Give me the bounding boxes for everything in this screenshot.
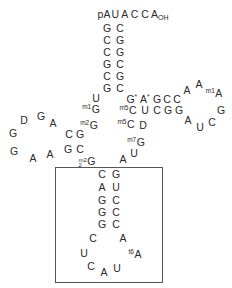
t-loop-m1a: m1A <box>206 88 223 99</box>
acceptor-stem-left-2: C <box>103 35 111 46</box>
base: G <box>92 103 100 115</box>
variable-a: A <box>119 154 126 165</box>
tail-bases: U A C C A <box>111 8 158 20</box>
mod-label: m2 <box>80 119 89 126</box>
t-stem-g2: G <box>153 94 161 105</box>
ac-stem-left-3: G <box>98 195 106 206</box>
t-stem-c2: C <box>173 94 181 105</box>
ac-stem-right-5: C <box>112 219 120 230</box>
acceptor-stem-right-4: C <box>116 59 124 70</box>
base: G <box>90 119 98 131</box>
acceptor-stem-left-3: C <box>103 47 111 58</box>
acceptor-stem-right-6: C <box>116 83 124 94</box>
acceptor-stem-right-1: C <box>116 23 124 34</box>
acceptor-stem-right-3: G <box>116 47 124 58</box>
acceptor-stem-right-5: G <box>116 71 124 82</box>
ac-loop-u2: U <box>113 263 121 274</box>
m1g: m1G <box>82 104 100 115</box>
d-loop-d: D <box>20 115 28 126</box>
ac-loop-t6a: t6A <box>129 249 142 260</box>
t-stem-u: U <box>141 105 149 116</box>
three-prime-tail: U A C C AOH <box>111 9 168 20</box>
d-stem-bottom-c: C <box>76 144 84 155</box>
ac-stem-right-3: C <box>112 195 120 206</box>
t-stem-c3: C <box>153 105 161 116</box>
t-stem-g4: G <box>175 105 183 116</box>
ac-loop-a1: A <box>100 267 107 278</box>
t-stem-c1: C <box>163 94 171 105</box>
d-stem-top-c: C <box>65 129 73 140</box>
base: G <box>87 155 95 167</box>
anticodon-arm-box <box>55 167 163 283</box>
t-loop-a2: A <box>195 79 202 90</box>
ac-loop-c1: C <box>89 233 97 244</box>
ac-loop-a2: A <box>119 233 126 244</box>
acceptor-stem-left-5: C <box>103 71 111 82</box>
d-loop-g1: G <box>37 111 45 122</box>
d-stem-bottom-g: G <box>64 144 72 155</box>
oh-subscript: OH <box>158 14 169 21</box>
t-loop-u: U <box>196 122 204 133</box>
mod-label: m1 <box>82 103 91 110</box>
t-loop-a1: A <box>183 85 190 96</box>
ac-loop-c2: C <box>87 261 95 272</box>
t-stem-m5c: m5C <box>119 105 136 116</box>
t-stem-a: A* <box>140 94 150 105</box>
m5c-2: m5C <box>117 119 134 130</box>
ac-loop-u1: U <box>80 248 88 259</box>
d-loop-a3: A <box>46 149 53 160</box>
m7g: m7G <box>127 137 145 148</box>
acceptor-stem-right-2: G <box>116 35 124 46</box>
ac-stem-right-4: C <box>112 207 120 218</box>
variable-d: D <box>139 120 147 131</box>
acceptor-stem-left-6: G <box>103 83 111 94</box>
ac-stem-right-1: G <box>112 169 120 180</box>
acceptor-stem-left-4: G <box>103 59 111 70</box>
ac-stem-left-2: A <box>98 182 105 193</box>
d-loop-a2: A <box>29 153 36 164</box>
d-loop-g2: G <box>9 128 17 139</box>
t-loop-g: G <box>217 105 225 116</box>
t-stem-g: G* <box>126 94 137 105</box>
d-loop-g3: G <box>10 146 18 157</box>
t-loop-a3: A <box>184 115 191 126</box>
d-stem-top-g: G <box>76 129 84 140</box>
m22-mod: m22 <box>78 158 86 168</box>
t-loop-c: C <box>208 117 216 128</box>
ac-stem-left-5: G <box>98 219 106 230</box>
ac-stem-right-2: U <box>112 182 120 193</box>
acceptor-stem-left-1: G <box>103 23 111 34</box>
five-prime-end: pA <box>98 9 111 20</box>
t-stem-g3: G <box>164 105 172 116</box>
variable-u: U <box>130 148 138 159</box>
ac-stem-left-4: G <box>98 207 106 218</box>
connector-u: U <box>92 93 100 104</box>
ac-stem-left-1: C <box>98 169 106 180</box>
d-loop-a1: A <box>49 118 56 129</box>
